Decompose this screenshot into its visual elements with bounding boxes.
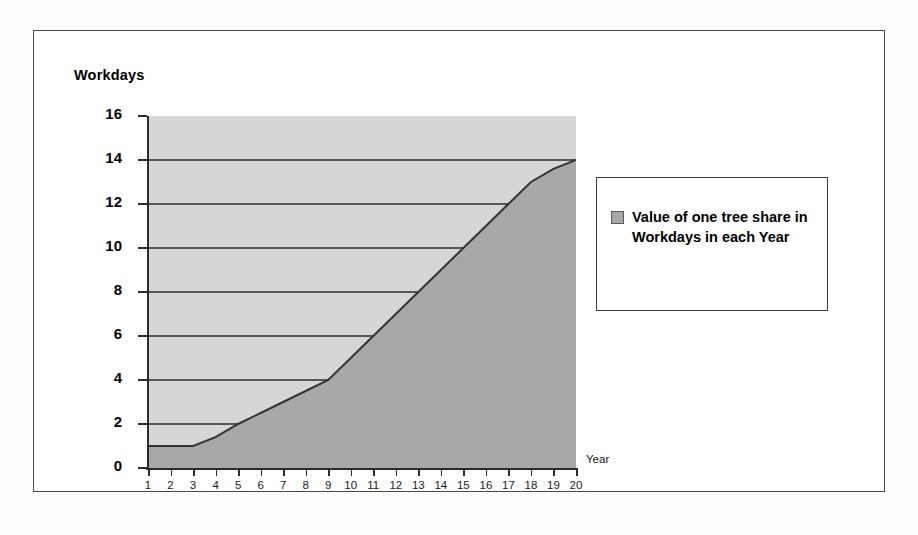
y-tick-mark xyxy=(138,423,147,425)
y-tick-label: 6 xyxy=(76,325,122,342)
x-tick-mark xyxy=(373,468,375,476)
y-tick-label: 8 xyxy=(76,281,122,298)
series-color-swatch-icon xyxy=(611,211,624,224)
x-tick-mark xyxy=(148,468,150,476)
y-tick-label: 4 xyxy=(76,369,122,386)
y-tick-label: 12 xyxy=(76,193,122,210)
x-tick-mark xyxy=(553,468,555,476)
y-tick-mark xyxy=(138,335,147,337)
y-tick-mark xyxy=(138,203,147,205)
chart-legend: Value of one tree share in Workdays in e… xyxy=(596,177,828,311)
chart-screenshot: Workdays 1614121086420 12345678910111213… xyxy=(0,0,918,535)
x-tick-label: 20 xyxy=(562,479,590,491)
y-tick-mark xyxy=(138,379,147,381)
x-tick-mark xyxy=(261,468,263,476)
x-tick-mark xyxy=(171,468,173,476)
legend-entry: Value of one tree share in Workdays in e… xyxy=(611,208,812,247)
x-tick-mark xyxy=(486,468,488,476)
area-series-svg xyxy=(148,116,576,468)
x-tick-mark xyxy=(531,468,533,476)
y-tick-mark xyxy=(138,291,147,293)
x-tick-mark xyxy=(441,468,443,476)
y-tick-label: 2 xyxy=(76,413,122,430)
x-axis-caption: Year xyxy=(586,453,609,465)
x-tick-mark xyxy=(238,468,240,476)
x-tick-mark xyxy=(328,468,330,476)
x-tick-mark xyxy=(193,468,195,476)
x-tick-mark xyxy=(283,468,285,476)
y-tick-mark xyxy=(138,159,147,161)
y-tick-label: 14 xyxy=(76,149,122,166)
x-tick-mark xyxy=(216,468,218,476)
chart-frame: Workdays 1614121086420 12345678910111213… xyxy=(33,30,885,492)
plot-area xyxy=(148,116,576,468)
legend-entry-label: Value of one tree share in Workdays in e… xyxy=(632,208,812,247)
x-tick-mark xyxy=(508,468,510,476)
y-tick-mark xyxy=(138,247,147,249)
x-tick-mark xyxy=(463,468,465,476)
y-axis-tick-labels: 1614121086420 xyxy=(76,31,138,493)
area-fill-path xyxy=(148,160,576,468)
x-tick-mark xyxy=(418,468,420,476)
y-tick-label: 10 xyxy=(76,237,122,254)
y-tick-mark xyxy=(138,467,147,469)
x-tick-mark xyxy=(306,468,308,476)
y-tick-mark xyxy=(138,115,147,117)
x-tick-mark xyxy=(351,468,353,476)
y-tick-label: 0 xyxy=(76,457,122,474)
x-tick-mark xyxy=(396,468,398,476)
y-tick-label: 16 xyxy=(76,105,122,122)
x-tick-mark xyxy=(576,468,578,476)
x-axis-line xyxy=(146,468,578,470)
